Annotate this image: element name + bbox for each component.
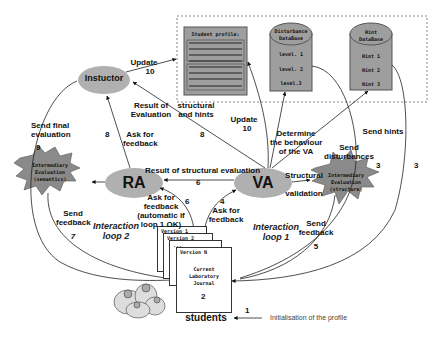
hint-1: Hint 1 xyxy=(350,53,392,60)
disturbance-level-1: level. 1 xyxy=(270,51,312,58)
edge-number-3-hints: 3 xyxy=(414,161,418,170)
students-label: students xyxy=(180,312,232,323)
interaction-loop-2-label: Interaction loop 2 xyxy=(92,221,140,241)
disturbance-level-3: level.3 xyxy=(270,80,312,87)
update-label-top: Update 10 xyxy=(127,58,161,76)
edge-number-6-structural: 6 xyxy=(196,178,200,187)
hint-3: Hint 3 xyxy=(350,81,392,88)
send-disturbances-label: Send disturbances xyxy=(322,143,376,161)
send-feedback-5-label: Send feedback 5 xyxy=(298,219,334,251)
update-label-mid: Update 10 xyxy=(230,115,258,133)
disturbance-db-title: Disturbance DataBase xyxy=(270,28,312,42)
edge-number-4: 4 xyxy=(220,197,224,206)
edge-number-6-ask: 6 xyxy=(185,197,189,206)
student-profile-title: Student profile: xyxy=(184,31,247,38)
initialisation-label: Initialisation of the profile xyxy=(270,313,350,322)
eval-structure-text: Intermediary Evaluation (structure) xyxy=(316,172,376,193)
ra-label: RA xyxy=(105,174,163,192)
instructor-label: Instuctor xyxy=(78,73,130,83)
journal-current-version: Version N Current Laboratory Journal 2 xyxy=(176,247,232,313)
structural-validation-label: Structural validation xyxy=(284,171,324,198)
ask-for-feedback-4-label: Ask for feedback xyxy=(208,206,244,224)
result-of-evaluation-label: Result of Evaluation xyxy=(130,101,172,119)
edge-number-8-mid: 8 xyxy=(200,130,204,139)
result-of-structural-evaluation-label: Result of structural evaluation xyxy=(145,166,255,175)
interaction-loop-1-label: Interaction loop 1 xyxy=(252,222,300,242)
send-final-evaluation-label: Send final evaluation 9 xyxy=(31,121,69,152)
send-hints-label: Send hints xyxy=(362,127,404,136)
edge-number-1: 1 xyxy=(245,306,249,315)
ask-for-feedback-auto-label: Ask for feedback (automatic if loop 1 OK… xyxy=(135,193,187,229)
determine-behaviour-label: Determine the behaviour of the VA xyxy=(270,129,322,156)
send-feedback-7-label: Send feedback 7 xyxy=(56,209,90,241)
disturbance-level-2: level. 2 xyxy=(270,66,312,73)
edge-number-3-disturbances: 3 xyxy=(376,161,380,170)
eval-semantics-text: Intermediary Evaluation (semantics) xyxy=(22,162,78,183)
edge-number-8-ra: 8 xyxy=(105,130,109,139)
ask-for-feedback-8-label: Ask for feedback xyxy=(123,130,157,148)
journal-title: Current Laboratory Journal xyxy=(177,266,231,287)
hint-db-title: Hint DataBase xyxy=(350,29,392,43)
structural-and-hints-label: structural and hints xyxy=(176,101,216,119)
journal-number: 2 xyxy=(201,292,205,301)
students-crowd-icon xyxy=(114,284,165,318)
hint-2: Hint 2 xyxy=(350,67,392,74)
